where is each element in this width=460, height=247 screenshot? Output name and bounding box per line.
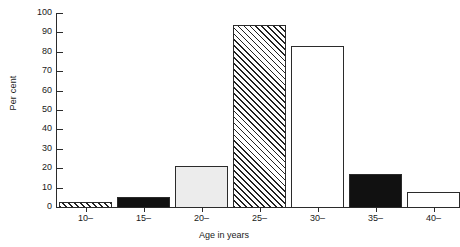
y-tick-label: 30	[26, 144, 52, 153]
x-tick-label: 40–	[414, 213, 454, 223]
x-tick-mark	[376, 208, 377, 212]
y-tick-mark	[57, 91, 63, 92]
x-tick-label: 25–	[240, 213, 280, 223]
y-tick: 100	[0, 13, 63, 14]
x-tick-label: 30–	[298, 213, 338, 223]
x-axis-line	[56, 207, 441, 208]
y-tick-label: 80	[26, 47, 52, 56]
y-tick: 70	[0, 71, 63, 72]
y-tick-label: 20	[26, 163, 52, 172]
y-tick-mark	[57, 149, 63, 150]
y-tick-mark	[57, 110, 63, 111]
y-tick-mark	[57, 52, 63, 53]
y-tick-mark	[57, 13, 63, 14]
y-tick-label: 10	[26, 183, 52, 192]
y-tick-label: 90	[26, 27, 52, 36]
y-tick-label: 50	[26, 105, 52, 114]
y-tick-label: 60	[26, 86, 52, 95]
x-tick-mark	[434, 208, 435, 212]
bar	[349, 174, 402, 208]
y-tick-mark	[57, 71, 63, 72]
y-tick-mark	[57, 168, 63, 169]
x-tick-label: 15–	[124, 213, 164, 223]
y-tick: 40	[0, 129, 63, 130]
y-tick: 10	[0, 188, 63, 189]
y-tick-label: 100	[26, 8, 52, 17]
y-tick-mark	[57, 129, 63, 130]
bar	[175, 166, 228, 208]
y-tick: 90	[0, 32, 63, 33]
y-tick: 0	[0, 207, 63, 208]
bar	[407, 192, 460, 208]
x-tick-label: 10–	[66, 213, 106, 223]
bar	[233, 25, 286, 208]
x-tick-label: 20–	[182, 213, 222, 223]
y-tick: 50	[0, 110, 63, 111]
x-tick-label: 35–	[356, 213, 396, 223]
y-axis-title: Per cent	[8, 58, 18, 128]
x-tick-mark	[260, 208, 261, 212]
y-tick: 80	[0, 52, 63, 53]
y-tick-label: 0	[26, 202, 52, 211]
bar	[291, 46, 344, 208]
y-tick: 60	[0, 91, 63, 92]
y-tick-label: 70	[26, 66, 52, 75]
y-tick-mark	[57, 188, 63, 189]
x-tick-mark	[86, 208, 87, 212]
x-axis-title: Age in years	[0, 230, 448, 240]
x-tick-mark	[202, 208, 203, 212]
y-tick: 30	[0, 149, 63, 150]
y-tick-mark	[57, 32, 63, 33]
y-tick: 20	[0, 168, 63, 169]
y-tick-label: 40	[26, 124, 52, 133]
x-tick-mark	[144, 208, 145, 212]
x-tick-mark	[318, 208, 319, 212]
